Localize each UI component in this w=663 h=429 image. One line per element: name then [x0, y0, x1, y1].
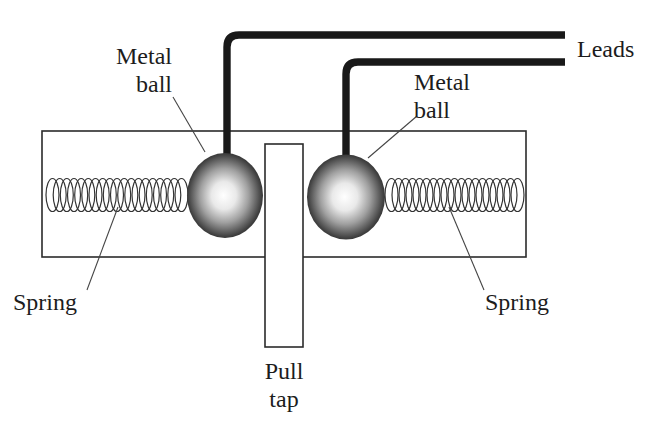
leader-line-spring-right [449, 207, 484, 290]
pull-tap-label-line2: tap [244, 385, 324, 413]
spring-right-coil [385, 179, 524, 212]
metal-ball-left-label: Metal ball [92, 42, 172, 98]
metal-ball-right-label-line2: ball [414, 96, 470, 124]
metal-ball-left-label-line2: ball [92, 70, 172, 98]
pull-tap-label-line1: Pull [244, 357, 324, 385]
metal-ball-right-label: Metal ball [414, 68, 470, 124]
spring-left-label: Spring [13, 288, 77, 316]
leader-line-metal-ball-left [173, 97, 205, 152]
lead-wire-left [227, 35, 565, 158]
metal-ball-left-label-line1: Metal [92, 42, 172, 70]
leads-label: Leads [577, 35, 634, 63]
spring-left-coil [46, 179, 188, 212]
pull-tap-label: Pull tap [244, 357, 324, 413]
ball-switch-diagram: Metal ball Metal ball Leads Spring Sprin… [0, 0, 663, 429]
pull-tap-rect [265, 144, 303, 347]
metal-ball-right-label-line1: Metal [414, 68, 470, 96]
metal-ball-right-shape [307, 155, 385, 240]
leader-line-spring-left [87, 207, 118, 290]
metal-ball-left-shape [187, 153, 263, 238]
leader-line-metal-ball-right [368, 116, 417, 158]
spring-right-label: Spring [485, 288, 549, 316]
